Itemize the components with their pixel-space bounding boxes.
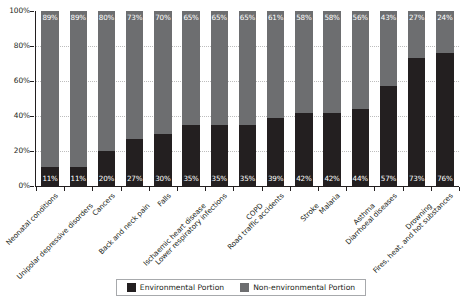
y-tick-label: 60% <box>0 77 30 85</box>
x-tick-mark <box>36 187 37 191</box>
bar-value-label: 89% <box>71 14 86 167</box>
bar-segment-non-environmental[interactable]: 43% <box>380 11 397 86</box>
bar-value-label: 42% <box>324 175 339 183</box>
x-tick-mark <box>149 187 150 191</box>
x-axis-labels: Neonatal conditionsUnipolar depressive d… <box>36 192 466 272</box>
bar-column[interactable]: 24%76% <box>436 11 453 186</box>
bar-segment-non-environmental[interactable]: 65% <box>211 11 228 125</box>
y-tick-mark <box>30 151 34 152</box>
bar-value-label: 65% <box>212 14 227 125</box>
bar-segment-non-environmental[interactable]: 73% <box>126 11 143 139</box>
bar-value-label: 61% <box>268 14 283 118</box>
bar-value-label: 11% <box>42 175 57 183</box>
bar-column[interactable]: 70%30% <box>154 11 171 186</box>
y-tick-label: 20% <box>0 147 30 155</box>
y-tick-label: 80% <box>0 42 30 50</box>
bar-segment-non-environmental[interactable]: 61% <box>267 11 284 118</box>
bar-value-label: 89% <box>42 14 57 167</box>
y-tick-mark <box>30 11 34 12</box>
bar-value-label: 73% <box>127 14 142 139</box>
bar-segment-non-environmental[interactable]: 58% <box>323 11 340 113</box>
x-tick-mark <box>374 187 375 191</box>
x-tick-mark <box>431 187 432 191</box>
x-tick-mark <box>318 187 319 191</box>
bar-segment-environmental[interactable]: 11% <box>41 167 58 186</box>
bar-value-label: 65% <box>240 14 255 125</box>
y-tick-label: 40% <box>0 112 30 120</box>
bar-segment-non-environmental[interactable]: 65% <box>239 11 256 125</box>
bar-value-label: 35% <box>183 175 198 183</box>
bar-segment-non-environmental[interactable]: 58% <box>295 11 312 113</box>
bar-column[interactable]: 43%57% <box>380 11 397 186</box>
bar-column[interactable]: 65%35% <box>211 11 228 186</box>
bar-value-label: 58% <box>324 14 339 113</box>
y-tick-label: 100% <box>0 7 30 15</box>
y-tick-mark <box>30 46 34 47</box>
y-tick-mark <box>30 116 34 117</box>
legend-swatch-nonenv <box>240 283 249 292</box>
bar-value-label: 58% <box>296 14 311 113</box>
x-axis-category-text: Back and neck pain <box>97 202 151 256</box>
plot-area: 0%20%40%60%80%100% 89%11%89%11%80%20%73%… <box>0 0 466 272</box>
legend-item[interactable]: Environmental Portion <box>127 283 224 292</box>
bar-segment-environmental[interactable]: 57% <box>380 86 397 186</box>
legend-label: Non-environmental Portion <box>253 283 355 292</box>
bar-column[interactable]: 80%20% <box>98 11 115 186</box>
chart-legend: Environmental PortionNon-environmental P… <box>116 279 366 296</box>
bar-segment-non-environmental[interactable]: 89% <box>70 11 87 167</box>
legend-label: Environmental Portion <box>140 283 224 292</box>
stacked-bar-chart: 0%20%40%60%80%100% 89%11%89%11%80%20%73%… <box>0 0 466 301</box>
x-tick-mark <box>262 187 263 191</box>
x-axis-category-text: Unipolar depressive disorders <box>16 202 95 281</box>
x-axis-category-text: Ischaemic heart disease <box>142 202 208 268</box>
bar-value-label: 65% <box>183 14 198 125</box>
bar-value-label: 27% <box>409 14 424 58</box>
legend-item[interactable]: Non-environmental Portion <box>240 283 355 292</box>
bar-value-label: 70% <box>155 14 170 134</box>
x-tick-mark <box>205 187 206 191</box>
bar-column[interactable]: 56%44% <box>352 11 369 186</box>
bar-column[interactable]: 58%42% <box>323 11 340 186</box>
bar-column[interactable]: 58%42% <box>295 11 312 186</box>
x-axis-category-text: Stroke <box>299 202 320 223</box>
bar-segment-non-environmental[interactable]: 65% <box>182 11 199 125</box>
bar-segment-non-environmental[interactable]: 70% <box>154 11 171 134</box>
bar-column[interactable]: 61%39% <box>267 11 284 186</box>
x-axis-category-text: Road traffic accidents <box>226 192 285 251</box>
legend-swatch-env <box>127 283 136 292</box>
bar-segment-non-environmental[interactable]: 24% <box>436 11 453 53</box>
y-tick-mark <box>30 186 34 187</box>
bar-value-label: 80% <box>99 14 114 151</box>
y-tick-mark <box>30 81 34 82</box>
bar-value-label: 24% <box>437 14 452 53</box>
bar-value-label: 56% <box>353 14 368 109</box>
bar-segment-non-environmental[interactable]: 27% <box>408 11 425 58</box>
bar-column[interactable]: 89%11% <box>41 11 58 186</box>
y-axis: 0%20%40%60%80%100% <box>0 0 30 192</box>
bar-column[interactable]: 27%73% <box>408 11 425 186</box>
bar-segment-non-environmental[interactable]: 89% <box>41 11 58 167</box>
x-tick-mark <box>92 187 93 191</box>
bar-value-label: 39% <box>268 175 283 183</box>
bar-segment-non-environmental[interactable]: 80% <box>98 11 115 151</box>
bar-segment-non-environmental[interactable]: 56% <box>352 11 369 109</box>
y-tick-label: 0% <box>0 182 30 190</box>
bar-segment-environmental[interactable]: 76% <box>436 53 453 186</box>
bar-value-label: 43% <box>381 14 396 86</box>
bar-value-label: 57% <box>381 175 396 183</box>
